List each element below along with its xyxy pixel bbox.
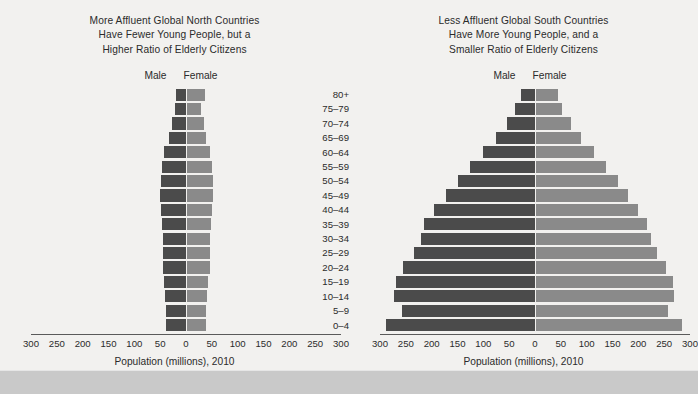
legend-label-female-left: Female: [184, 70, 218, 81]
bar-male: [175, 103, 186, 115]
pyramid-row: [0, 146, 349, 160]
legend-left: Male Female: [0, 70, 349, 84]
pyramid-row: [0, 319, 349, 333]
bar-female: [536, 305, 668, 317]
pyramid-row: [0, 261, 349, 275]
bar-male: [403, 261, 535, 273]
pyramid-row: [349, 290, 698, 304]
pyramid-row: [349, 102, 698, 116]
x-axis-tick-label: 0: [532, 338, 537, 349]
bar-male: [169, 132, 186, 144]
x-axis-tick-label: 50: [555, 338, 566, 349]
age-group-label: 45–49: [309, 189, 349, 203]
x-axis-tick-label: 250: [656, 338, 672, 349]
bar-female: [187, 132, 206, 144]
pyramid-row: [349, 160, 698, 174]
bar-male: [515, 103, 535, 115]
x-axis-tick-label: 250: [307, 338, 323, 349]
age-group-label: 20–24: [309, 261, 349, 275]
bar-male: [176, 89, 186, 101]
pyramid-row: [0, 131, 349, 145]
bar-male: [165, 290, 186, 302]
bar-male: [163, 233, 186, 245]
bar-female: [187, 146, 210, 158]
x-axis-tick-label: 150: [449, 338, 465, 349]
bar-female: [536, 261, 666, 273]
x-axis-ticks-right: 30025020015010050050100150200250300: [349, 338, 698, 351]
pyramid-row: [349, 218, 698, 232]
x-axis-tick-label: 300: [372, 338, 388, 349]
panel-title-left: More Affluent Global North Countries Hav…: [0, 14, 349, 57]
x-axis-tick-label: 150: [255, 338, 271, 349]
x-axis-tick-label: 300: [333, 338, 349, 349]
pyramid-row: [349, 232, 698, 246]
bar-male: [162, 218, 186, 230]
x-axis-tick-label: 300: [23, 338, 39, 349]
age-group-label: 70–74: [309, 117, 349, 131]
x-axis-tick-label: 150: [604, 338, 620, 349]
age-group-label: 5–9: [309, 304, 349, 318]
bar-female: [536, 103, 562, 115]
bar-female: [187, 103, 201, 115]
bar-female: [536, 117, 571, 129]
x-axis-tick-label: 0: [183, 338, 188, 349]
x-axis-tick-label: 50: [155, 338, 166, 349]
age-group-label: 80+: [309, 88, 349, 102]
bar-male: [396, 276, 536, 288]
bar-female: [536, 204, 638, 216]
bar-female: [187, 218, 211, 230]
bar-male: [163, 261, 186, 273]
bar-male: [421, 233, 535, 245]
bar-male: [458, 175, 536, 187]
panel-title-right: Less Affluent Global South Countries Hav…: [349, 14, 698, 57]
age-group-label: 60–64: [309, 146, 349, 160]
age-group-label: 35–39: [309, 218, 349, 232]
pyramid-row: [0, 218, 349, 232]
legend-label-male-left: Male: [144, 70, 166, 81]
pyramid-row: [349, 261, 698, 275]
pyramid-row: [349, 275, 698, 289]
bar-male: [414, 247, 535, 259]
bar-male: [162, 161, 186, 173]
x-axis-line-left: [31, 334, 341, 335]
pyramid-row: [0, 174, 349, 188]
panel-title-right-line-3: Smaller Ratio of Elderly Citizens: [349, 43, 698, 57]
bar-female: [187, 161, 212, 173]
bar-female: [536, 290, 674, 302]
bar-male: [386, 319, 535, 331]
bar-female: [187, 189, 213, 201]
panel-title-left-line-2: Have Fewer Young People, but a: [0, 28, 349, 42]
bar-female: [187, 204, 212, 216]
pyramid-row: [0, 246, 349, 260]
pyramid-row: [0, 189, 349, 203]
bar-female: [536, 218, 647, 230]
pyramid-row: [349, 304, 698, 318]
age-group-label: 75–79: [309, 102, 349, 116]
chart-panel-global-north: More Affluent Global North Countries Hav…: [0, 0, 349, 370]
bar-female: [536, 146, 594, 158]
x-axis-tick-label: 100: [475, 338, 491, 349]
age-group-label: 40–44: [309, 203, 349, 217]
pyramid-row: [0, 88, 349, 102]
legend-label-male-right: Male: [493, 70, 515, 81]
bar-male: [164, 276, 186, 288]
x-axis-tick-label: 100: [126, 338, 142, 349]
bar-female: [536, 175, 618, 187]
pyramid-row: [0, 304, 349, 318]
pyramid-row: [0, 102, 349, 116]
x-axis-tick-label: 100: [579, 338, 595, 349]
bar-female: [536, 247, 657, 259]
age-group-labels: 80+75–7970–7465–6960–6455–5950–5445–4940…: [309, 88, 349, 333]
bar-male: [394, 290, 535, 302]
bar-female: [536, 233, 651, 245]
bar-female: [187, 319, 206, 331]
age-group-label: 30–34: [309, 232, 349, 246]
x-axis-tick-label: 200: [75, 338, 91, 349]
footer-band: [0, 370, 698, 394]
pyramid-row: [349, 88, 698, 102]
bar-female: [536, 276, 673, 288]
bar-male: [470, 161, 535, 173]
bar-female: [187, 261, 210, 273]
x-axis-tick-label: 200: [281, 338, 297, 349]
age-group-label: 55–59: [309, 160, 349, 174]
